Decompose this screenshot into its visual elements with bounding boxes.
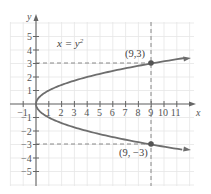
y-tick-label: −4 bbox=[21, 153, 32, 164]
x-tick-label: 7 bbox=[123, 107, 128, 118]
point-label-upper: (9,3) bbox=[125, 48, 146, 60]
parabola-chart: −1123456789101154321−1−2−3−4−5 (9,3) (9,… bbox=[0, 0, 211, 194]
x-tick-label: 4 bbox=[84, 107, 89, 118]
point-9-3 bbox=[148, 60, 154, 66]
point-label-lower: (9, −3) bbox=[119, 147, 148, 159]
point-9-neg3 bbox=[148, 141, 154, 147]
x-axis-arrow-icon bbox=[189, 102, 196, 107]
x-tick-label: 5 bbox=[97, 107, 102, 118]
y-axis-label: y bbox=[26, 11, 32, 22]
equation-label: x = y2 bbox=[56, 37, 84, 49]
x-axis-label: x bbox=[195, 107, 201, 118]
x-tick-label: 11 bbox=[171, 107, 181, 118]
y-tick-label: 1 bbox=[27, 85, 32, 96]
y-tick-label: 2 bbox=[27, 72, 32, 83]
x-tick-label: 10 bbox=[158, 107, 168, 118]
y-tick-label: −1 bbox=[21, 112, 32, 123]
y-tick-label: 3 bbox=[27, 58, 32, 69]
equation-exponent: 2 bbox=[80, 37, 84, 45]
y-tick-label: −5 bbox=[21, 166, 32, 177]
y-tick-label: −2 bbox=[21, 126, 32, 137]
x-tick-label: 2 bbox=[59, 107, 64, 118]
y-axis-arrow-icon bbox=[34, 14, 39, 21]
x-tick-label: 3 bbox=[71, 107, 76, 118]
x-tick-label: 9 bbox=[148, 107, 153, 118]
y-tick-label: 4 bbox=[27, 45, 32, 56]
equation-base: x = y bbox=[56, 37, 80, 49]
x-tick-label: 6 bbox=[110, 107, 115, 118]
y-tick-label: −3 bbox=[21, 139, 32, 150]
y-tick-label: 5 bbox=[27, 31, 32, 42]
x-tick-label: 8 bbox=[135, 107, 140, 118]
